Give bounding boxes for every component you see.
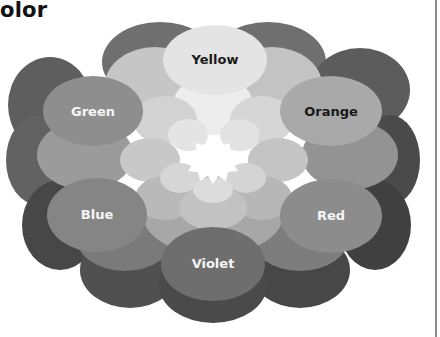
blue-label: Blue <box>81 207 114 222</box>
yellow-segment: Yellow <box>163 25 267 95</box>
frame-border-line <box>435 0 437 337</box>
green-label: Green <box>71 104 115 119</box>
yellow-label: Yellow <box>191 52 239 67</box>
orange-label: Orange <box>304 104 358 119</box>
green-segment: Green <box>43 76 143 146</box>
violet-segment: Violet <box>161 227 265 301</box>
violet-label: Violet <box>192 256 235 271</box>
blue-segment: Blue <box>47 178 147 252</box>
red-segment: Red <box>280 179 382 253</box>
orange-segment: Orange <box>280 76 382 146</box>
color-wheel-diagram: Yellow Orange Red Violet Blue Green <box>0 0 440 337</box>
red-label: Red <box>317 208 345 223</box>
